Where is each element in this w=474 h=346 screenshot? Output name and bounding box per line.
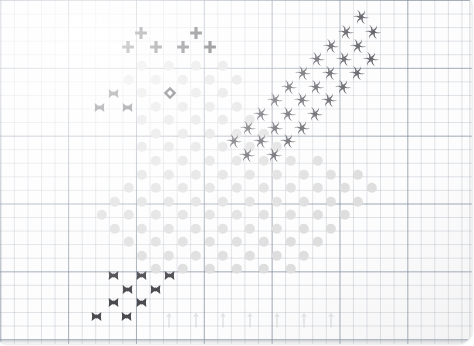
up-arrow-tick	[300, 312, 309, 329]
x-marker	[107, 269, 120, 282]
dot-marker	[313, 210, 323, 220]
up-arrow-tick	[327, 312, 336, 329]
x-marker	[93, 101, 106, 114]
dot-marker	[205, 264, 215, 274]
marker-layer	[0, 0, 472, 344]
dot-marker	[205, 237, 215, 247]
x-marker	[90, 310, 103, 323]
dot-marker	[272, 251, 282, 261]
plus-marker	[203, 40, 217, 54]
up-arrow-tick	[192, 312, 201, 329]
dot-marker	[164, 197, 174, 207]
dot-marker	[313, 237, 323, 247]
dot-marker	[245, 224, 255, 234]
dot-marker	[205, 75, 215, 85]
dot-marker	[178, 75, 188, 85]
pinwheel-marker	[266, 147, 283, 164]
dot-marker	[218, 115, 228, 125]
x-marker	[120, 310, 133, 323]
dot-marker	[191, 170, 201, 180]
dot-marker	[151, 237, 161, 247]
dot-marker	[124, 183, 134, 193]
dot-marker	[191, 88, 201, 98]
dot-marker	[178, 210, 188, 220]
dot-marker	[137, 251, 147, 261]
plus-marker	[121, 40, 135, 54]
up-arrow-tick	[219, 312, 228, 329]
dot-marker	[272, 197, 282, 207]
dot-marker	[178, 183, 188, 193]
screenshot-root	[0, 0, 474, 346]
dot-marker	[205, 210, 215, 220]
up-arrow-tick	[273, 312, 282, 329]
dot-marker	[137, 142, 147, 152]
dot-marker	[164, 251, 174, 261]
dot-marker	[151, 75, 161, 85]
dot-marker	[326, 170, 336, 180]
plus-marker	[149, 40, 163, 54]
dot-marker	[218, 197, 228, 207]
dot-marker	[178, 264, 188, 274]
dot-marker	[313, 183, 323, 193]
dot-marker	[259, 264, 269, 274]
dot-marker	[191, 224, 201, 234]
dot-marker	[340, 210, 350, 220]
dot-marker	[218, 224, 228, 234]
x-marker	[121, 283, 134, 296]
dot-marker	[151, 129, 161, 139]
dot-marker	[124, 237, 134, 247]
dot-marker	[178, 156, 188, 166]
x-marker	[107, 87, 120, 100]
dot-marker	[299, 251, 309, 261]
dot-marker	[286, 264, 296, 274]
dot-marker	[205, 156, 215, 166]
dot-marker	[286, 183, 296, 193]
dot-marker	[245, 197, 255, 207]
x-marker	[149, 283, 162, 296]
plus-marker	[189, 26, 203, 40]
x-marker	[135, 269, 148, 282]
dot-marker	[313, 156, 323, 166]
plus-marker	[176, 40, 190, 54]
dot-marker	[191, 197, 201, 207]
plus-marker	[134, 26, 148, 40]
dot-marker	[218, 170, 228, 180]
dot-marker	[178, 237, 188, 247]
dot-marker	[151, 156, 161, 166]
dot-marker	[205, 183, 215, 193]
dot-marker	[164, 224, 174, 234]
sheet-right-edge	[469, 0, 472, 344]
dot-marker	[205, 102, 215, 112]
graph-paper-sheet	[0, 0, 472, 344]
dot-marker	[232, 237, 242, 247]
dot-marker	[137, 61, 147, 71]
dot-marker	[191, 142, 201, 152]
dot-marker	[137, 197, 147, 207]
dot-marker	[218, 61, 228, 71]
dot-marker	[218, 251, 228, 261]
dot-marker	[259, 183, 269, 193]
x-marker	[163, 269, 176, 282]
dot-marker	[232, 264, 242, 274]
dot-marker	[259, 237, 269, 247]
dot-marker	[205, 129, 215, 139]
dot-marker	[326, 224, 336, 234]
dot-marker	[151, 183, 161, 193]
sheet-bottom-edge	[0, 340, 472, 344]
dot-marker	[178, 102, 188, 112]
dot-marker	[124, 210, 134, 220]
x-marker	[107, 296, 120, 309]
dot-marker	[178, 129, 188, 139]
up-arrow-tick	[246, 312, 255, 329]
dot-marker	[272, 170, 282, 180]
dot-marker	[164, 115, 174, 125]
dot-marker	[272, 224, 282, 234]
dot-marker	[151, 264, 161, 274]
x-marker	[135, 296, 148, 309]
dot-marker	[232, 210, 242, 220]
dot-marker	[286, 156, 296, 166]
dot-marker	[110, 224, 120, 234]
dot-marker	[299, 170, 309, 180]
pinwheel-marker	[365, 24, 382, 41]
dot-marker	[164, 142, 174, 152]
